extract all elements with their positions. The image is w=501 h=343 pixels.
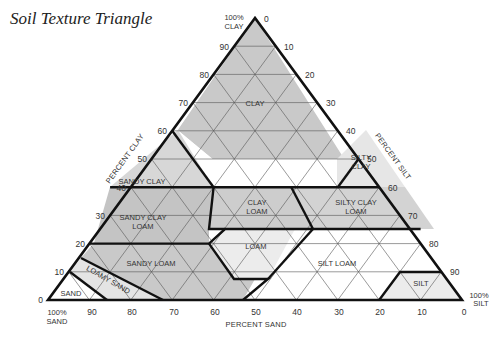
vertex-clay-line1: 100% bbox=[224, 13, 244, 22]
clay-tick-40: 40 bbox=[117, 183, 127, 193]
label-silt: SILT bbox=[413, 279, 429, 288]
silt-tick-60: 60 bbox=[388, 183, 398, 193]
silt-tick-20: 20 bbox=[305, 70, 315, 80]
silt-tick-50: 50 bbox=[367, 154, 377, 164]
sand-tick-50: 50 bbox=[251, 307, 261, 317]
vertex-sand-line2: SAND bbox=[47, 317, 68, 326]
clay-tick-60: 60 bbox=[158, 126, 168, 136]
sand-tick-80: 80 bbox=[127, 307, 137, 317]
clay-tick-70: 70 bbox=[179, 98, 189, 108]
clay-tick-30: 30 bbox=[96, 211, 106, 221]
sand-tick-10: 10 bbox=[417, 307, 427, 317]
label-silty-clay-loam-2: LOAM bbox=[345, 207, 366, 216]
sand-tick-60: 60 bbox=[210, 307, 220, 317]
silt-tick-80: 80 bbox=[429, 239, 439, 249]
vertex-clay-line2: CLAY bbox=[224, 22, 243, 31]
clay-tick-80: 80 bbox=[200, 70, 210, 80]
silt-tick-70: 70 bbox=[408, 211, 418, 221]
label-clay: CLAY bbox=[245, 99, 264, 108]
sand-tick-20: 20 bbox=[375, 307, 385, 317]
clay-tick-10: 10 bbox=[55, 267, 65, 277]
clay-tick-50: 50 bbox=[138, 154, 148, 164]
label-loam: LOAM bbox=[245, 242, 266, 251]
silt-tick-30: 30 bbox=[326, 98, 336, 108]
clay-tick-20: 20 bbox=[76, 239, 86, 249]
silt-tick-0: 0 bbox=[264, 14, 269, 24]
label-silt-loam: SILT LOAM bbox=[318, 259, 357, 268]
vertex-silt-line2: SILT bbox=[473, 299, 489, 308]
silt-tick-40: 40 bbox=[346, 126, 356, 136]
label-sandy-clay-loam-1: SANDY CLAY bbox=[120, 213, 167, 222]
soil-texture-triangle: CLAY SANDY CLAY SILTY CLAY SANDY CLAY LO… bbox=[0, 0, 501, 343]
sand-tick-40: 40 bbox=[292, 307, 302, 317]
label-silty-clay-loam-1: SILTY CLAY bbox=[335, 198, 376, 207]
sand-tick-70: 70 bbox=[169, 307, 179, 317]
silt-tick-10: 10 bbox=[284, 42, 294, 52]
label-sandy-clay-loam-2: LOAM bbox=[132, 222, 153, 231]
clay-tick-0: 0 bbox=[38, 295, 43, 305]
label-clay-loam-2: LOAM bbox=[246, 207, 267, 216]
silt-tick-90: 90 bbox=[450, 267, 460, 277]
sand-axis-ticks: 90 80 70 60 50 40 30 20 10 0 bbox=[87, 307, 466, 317]
label-sand: SAND bbox=[61, 289, 82, 298]
label-sandy-loam: SANDY LOAM bbox=[126, 259, 175, 268]
label-clay-loam-1: CLAY bbox=[247, 198, 266, 207]
vertex-sand-line1: 100% bbox=[47, 308, 67, 317]
sand-tick-90: 90 bbox=[87, 307, 97, 317]
clay-tick-90: 90 bbox=[220, 42, 230, 52]
axis-title-sand: PERCENT SAND bbox=[225, 320, 286, 329]
sand-tick-30: 30 bbox=[334, 307, 344, 317]
sand-tick-0: 0 bbox=[462, 307, 467, 317]
